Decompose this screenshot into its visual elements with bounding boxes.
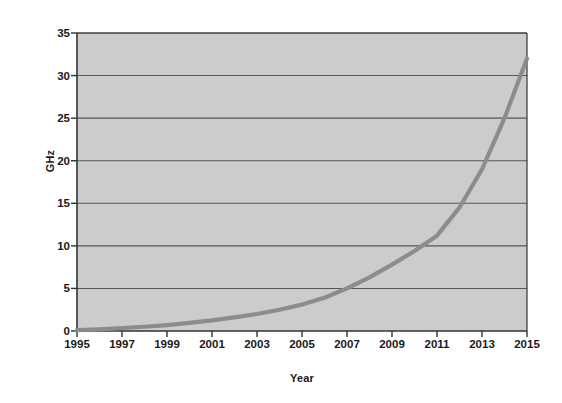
x-tick-label: 2013 <box>459 338 505 350</box>
chart-container: GHz 0 5 10 15 20 25 30 35 1995 1997 1999… <box>0 0 562 403</box>
x-tick-label: 1999 <box>144 338 190 350</box>
plot-background <box>77 33 527 331</box>
x-tick-label: 2005 <box>279 338 325 350</box>
x-tick-label: 2015 <box>504 338 550 350</box>
x-tick-label: 2003 <box>234 338 280 350</box>
x-tick-label: 2007 <box>324 338 370 350</box>
x-tick-label: 2001 <box>189 338 235 350</box>
x-tick-label: 2011 <box>414 338 460 350</box>
x-tick-label: 2009 <box>369 338 415 350</box>
x-tick-label: 1995 <box>54 338 100 350</box>
x-axis-title: Year <box>77 372 527 384</box>
x-tick-label: 1997 <box>99 338 145 350</box>
